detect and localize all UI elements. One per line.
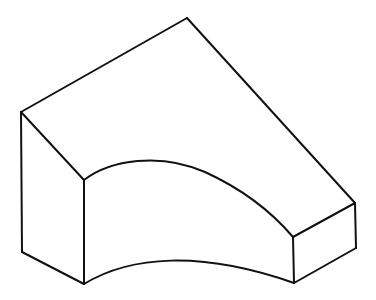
top-face-back-left-edge — [21, 18, 187, 112]
right-face-back-edge — [355, 203, 356, 248]
isometric-solid-drawing — [0, 0, 376, 300]
front-face-upper-curve — [84, 160, 293, 237]
left-face-back-edge — [21, 112, 22, 252]
front-face-lower-curve — [84, 261, 294, 284]
front-right-vertical-edge — [293, 237, 294, 283]
top-face-right-front-edge — [293, 203, 355, 237]
right-face-bottom-edge — [294, 248, 356, 283]
top-face-left-front-edge — [21, 112, 84, 180]
left-face-bottom-edge — [22, 252, 84, 284]
